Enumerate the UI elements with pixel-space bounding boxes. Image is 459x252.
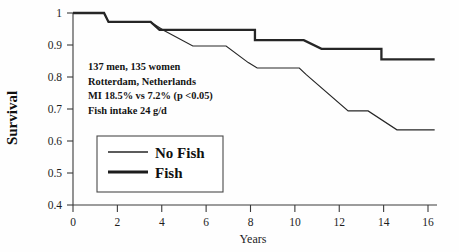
y-axis-title: Survival bbox=[4, 91, 20, 145]
x-tick-label: 2 bbox=[115, 216, 121, 228]
annotation-line: Rotterdam, Netherlands bbox=[88, 76, 196, 87]
chart-canvas: 0.40.50.60.70.80.91 0246810121416 Surviv… bbox=[0, 0, 459, 252]
legend-label-fish: Fish bbox=[155, 165, 183, 181]
x-tick-label: 14 bbox=[378, 216, 390, 228]
legend-label-no-fish: No Fish bbox=[155, 145, 205, 161]
y-tick-label: 0.9 bbox=[48, 39, 63, 51]
annotation-line: Fish intake 24 g/d bbox=[88, 105, 167, 116]
y-tick-label: 0.8 bbox=[48, 71, 63, 83]
x-tick-label: 4 bbox=[159, 216, 165, 228]
x-tick-label: 12 bbox=[334, 216, 346, 228]
x-axis-ticks: 0246810121416 bbox=[70, 205, 434, 228]
y-tick-label: 0.5 bbox=[48, 167, 63, 179]
y-tick-label: 0.4 bbox=[48, 199, 63, 211]
y-tick-label: 0.7 bbox=[48, 103, 63, 115]
y-tick-label: 1 bbox=[56, 7, 62, 19]
x-tick-label: 10 bbox=[289, 216, 301, 228]
annotation-block: 137 men, 135 womenRotterdam, Netherlands… bbox=[88, 61, 213, 116]
annotation-line: MI 18.5% vs 7.2% (p <0.05) bbox=[88, 90, 213, 102]
y-tick-label: 0.6 bbox=[48, 135, 63, 147]
x-tick-label: 16 bbox=[422, 216, 434, 228]
y-axis-ticks: 0.40.50.60.70.80.91 bbox=[48, 7, 73, 211]
series-line-fish bbox=[73, 13, 435, 59]
x-axis-title: Years bbox=[240, 232, 267, 246]
x-tick-label: 0 bbox=[70, 216, 76, 228]
x-tick-label: 8 bbox=[248, 216, 254, 228]
annotation-line: 137 men, 135 women bbox=[88, 61, 181, 72]
x-tick-label: 6 bbox=[203, 216, 209, 228]
survival-chart-figure: 0.40.50.60.70.80.91 0246810121416 Surviv… bbox=[0, 0, 459, 252]
chart-legend: No Fish Fish bbox=[97, 136, 223, 192]
